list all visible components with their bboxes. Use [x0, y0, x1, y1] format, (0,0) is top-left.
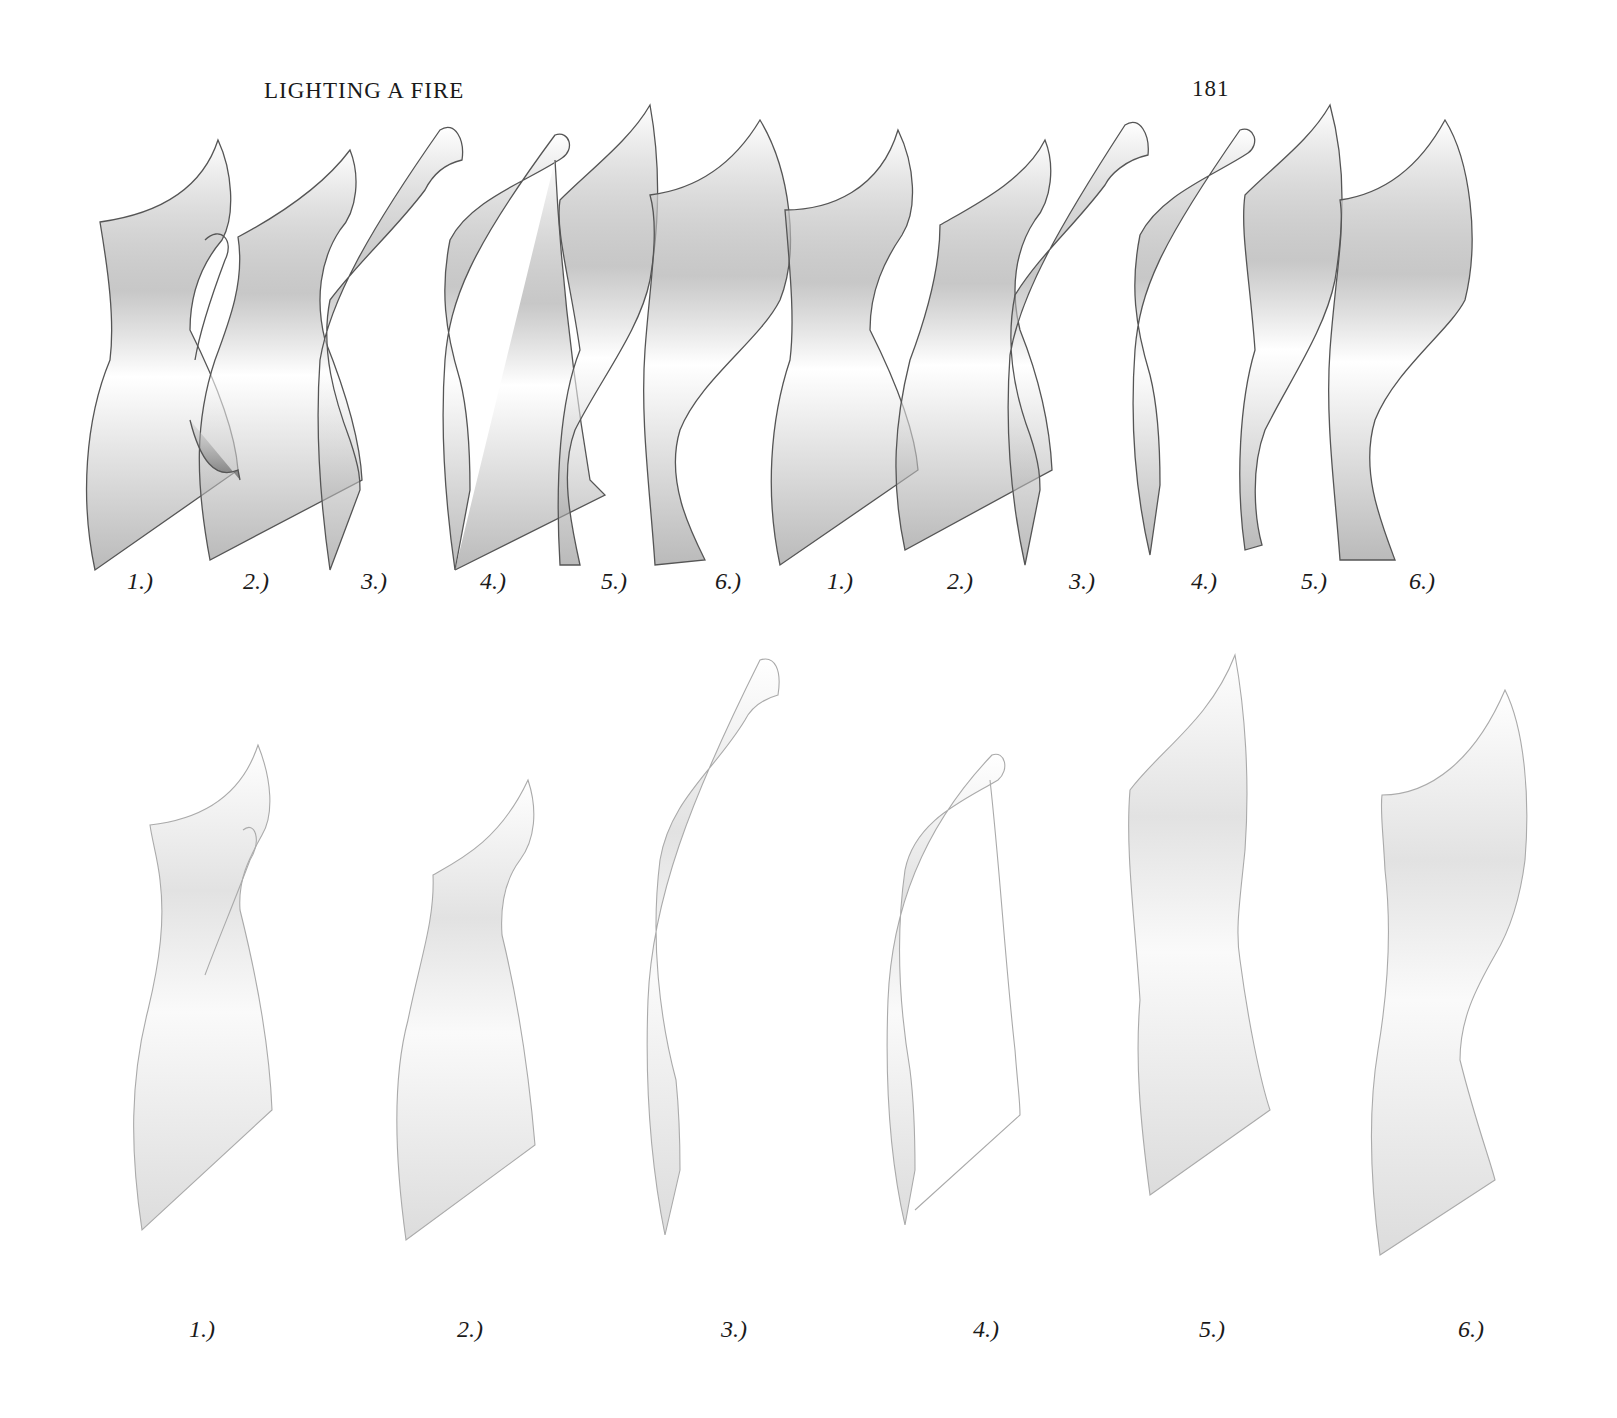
caption-top-9: 3.) [1069, 568, 1095, 595]
bottom-sequence-illustration [0, 0, 1617, 1418]
caption-top-11: 5.) [1301, 568, 1327, 595]
caption-bottom-5: 5.) [1199, 1316, 1225, 1343]
caption-top-1: 1.) [127, 568, 153, 595]
caption-bottom-4: 4.) [973, 1316, 999, 1343]
caption-bottom-2: 2.) [457, 1316, 483, 1343]
caption-top-6: 6.) [715, 568, 741, 595]
caption-top-5: 5.) [601, 568, 627, 595]
ribbon-group-bottom [134, 655, 1527, 1255]
caption-top-4: 4.) [480, 568, 506, 595]
caption-top-10: 4.) [1191, 568, 1217, 595]
caption-bottom-3: 3.) [721, 1316, 747, 1343]
caption-top-2: 2.) [243, 568, 269, 595]
caption-bottom-1: 1.) [189, 1316, 215, 1343]
caption-top-7: 1.) [827, 568, 853, 595]
caption-top-3: 3.) [361, 568, 387, 595]
caption-bottom-6: 6.) [1458, 1316, 1484, 1343]
caption-top-12: 6.) [1409, 568, 1435, 595]
caption-top-8: 2.) [947, 568, 973, 595]
